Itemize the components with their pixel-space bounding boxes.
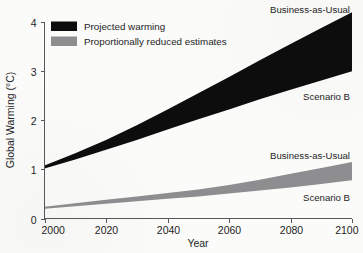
y-tick-marks <box>41 23 45 220</box>
chart-figure: 200020202040206020802100 01234 Year Glob… <box>0 0 363 253</box>
annotation-projected-scenario-b: Scenario B <box>303 91 350 102</box>
legend-item-projected-warming: Projected warming <box>51 21 165 32</box>
x-axis-title: Year <box>187 237 209 249</box>
annotation-projected-business-as-usual: Business-as-Usual <box>270 4 350 15</box>
y-tick-labels: 01234 <box>31 17 37 226</box>
chart-canvas: 200020202040206020802100 01234 Year Glob… <box>0 0 363 253</box>
y-tick-label-2: 2 <box>31 115 37 127</box>
legend-label-projected-warming: Projected warming <box>84 21 165 32</box>
x-tick-label-2000: 2000 <box>42 224 66 236</box>
y-tick-label-0: 0 <box>31 214 37 226</box>
legend-label-reduced-estimates: Proportionally reduced estimates <box>84 36 227 47</box>
x-tick-marks <box>46 219 353 223</box>
x-tick-label-2080: 2080 <box>280 224 304 236</box>
chart-legend: Projected warming Proportionally reduced… <box>51 21 227 47</box>
y-tick-label-4: 4 <box>31 17 37 29</box>
annotation-reduced-business-as-usual: Business-as-Usual <box>270 150 350 161</box>
x-tick-labels: 200020202040206020802100 <box>42 224 359 236</box>
annotation-reduced-scenario-b: Scenario B <box>303 192 350 203</box>
y-tick-label-3: 3 <box>31 66 37 78</box>
y-tick-label-1: 1 <box>31 164 37 176</box>
y-axis-title: Global Warming (°C) <box>4 72 16 169</box>
x-tick-label-2100: 2100 <box>335 224 359 236</box>
legend-swatch-projected-warming <box>51 22 77 32</box>
legend-item-reduced-estimates: Proportionally reduced estimates <box>51 36 227 47</box>
x-tick-label-2020: 2020 <box>95 224 119 236</box>
x-tick-label-2040: 2040 <box>157 224 181 236</box>
x-tick-label-2060: 2060 <box>218 224 242 236</box>
legend-swatch-reduced-estimates <box>51 37 77 47</box>
